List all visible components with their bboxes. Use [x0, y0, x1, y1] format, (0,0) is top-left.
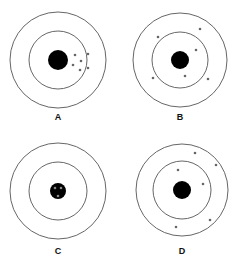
shot-mark — [177, 169, 180, 172]
targets-diagram — [0, 0, 233, 256]
shot-mark — [87, 67, 90, 70]
bullseye — [48, 50, 68, 70]
target-label: D — [179, 246, 186, 256]
shot-mark — [54, 187, 57, 190]
shot-mark — [175, 226, 178, 229]
shot-mark — [215, 164, 218, 167]
shot-mark — [199, 28, 202, 31]
target-label: B — [177, 112, 184, 122]
shot-mark — [80, 60, 83, 63]
shot-mark — [194, 152, 197, 155]
bullseye — [171, 51, 189, 69]
shot-mark — [184, 75, 187, 78]
shot-mark — [60, 187, 63, 190]
shot-mark — [79, 69, 82, 72]
shot-mark — [87, 53, 90, 56]
bullseye — [173, 181, 191, 199]
shot-mark — [74, 54, 77, 57]
shot-mark — [72, 64, 75, 67]
target-c — [10, 143, 106, 239]
shot-mark — [57, 195, 60, 198]
target-a — [10, 12, 106, 108]
target-label: A — [55, 112, 62, 122]
shot-mark — [157, 36, 160, 39]
shot-mark — [195, 49, 198, 52]
shot-mark — [209, 219, 212, 222]
shot-mark — [152, 77, 155, 80]
target-b — [133, 13, 227, 107]
shot-mark — [207, 78, 210, 81]
shot-mark — [202, 183, 205, 186]
target-d — [136, 144, 228, 236]
target-label: C — [55, 246, 62, 256]
